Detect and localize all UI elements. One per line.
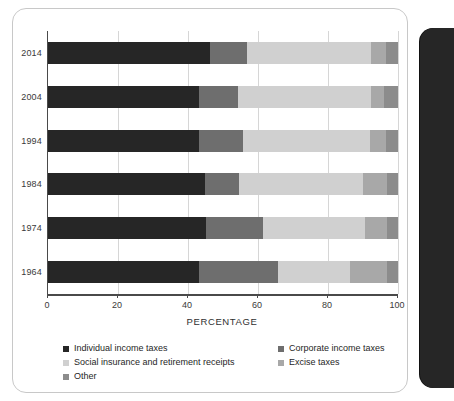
bar-segment	[387, 173, 398, 195]
legend-row: Other	[63, 371, 403, 382]
legend-item-other: Other	[63, 371, 97, 382]
bar-segment	[386, 130, 398, 152]
bar-row: 1964	[48, 261, 398, 283]
bar-row: 1994	[48, 130, 398, 152]
bar-row: 1984	[48, 173, 398, 195]
legend-row: Social insurance and retirement receipts…	[63, 357, 403, 368]
x-axis-tick	[257, 294, 258, 298]
y-axis-category-label: 2014	[21, 48, 42, 58]
y-axis-category-label: 1994	[21, 136, 42, 146]
bar-segment	[363, 173, 387, 195]
bar-segment	[350, 261, 387, 283]
bar-segment	[370, 130, 386, 152]
x-axis-tick	[397, 294, 398, 298]
bar-segment	[199, 130, 243, 152]
legend-swatch-icon	[63, 346, 69, 352]
legend-col-right: Corporate income taxes	[278, 343, 385, 354]
x-axis-tick-label: 20	[112, 300, 122, 310]
legend-item-corporate-income-taxes: Corporate income taxes	[278, 343, 385, 354]
bar-segment	[48, 173, 205, 195]
x-axis-title: PERCENTAGE	[47, 316, 397, 327]
legend-label: Individual income taxes	[74, 343, 168, 354]
bar-segment	[206, 217, 263, 239]
bar-segment	[199, 86, 239, 108]
legend-swatch-icon	[278, 346, 284, 352]
legend-col-left: Other	[63, 371, 278, 382]
legend-label: Social insurance and retirement receipts	[74, 357, 235, 368]
page-gutter	[408, 0, 420, 401]
x-axis-tick-label: 80	[322, 300, 332, 310]
bar-segment	[384, 86, 398, 108]
bar-segment	[387, 217, 398, 239]
bar-series-container: 201420041994198419741964	[48, 31, 398, 294]
y-axis-category-label: 1964	[21, 267, 42, 277]
bar-segment	[239, 173, 363, 195]
bar-row: 2014	[48, 42, 398, 64]
x-axis-tick-label: 0	[44, 300, 49, 310]
bar-segment	[48, 86, 199, 108]
bar-segment	[247, 42, 371, 64]
y-axis-category-label: 1974	[21, 223, 42, 233]
bar-segment	[243, 130, 370, 152]
bar-segment	[387, 261, 398, 283]
plot-area: 201420041994198419741964	[47, 31, 398, 294]
legend-row: Individual income taxes Corporate income…	[63, 343, 403, 354]
legend-label: Excise taxes	[289, 357, 340, 368]
bar-segment	[48, 130, 199, 152]
x-axis-tick	[47, 294, 48, 298]
bar-segment	[278, 261, 350, 283]
x-axis-tick-label: 100	[389, 300, 404, 310]
bar-segment	[386, 42, 398, 64]
legend-label: Corporate income taxes	[289, 343, 385, 354]
x-axis-tick	[117, 294, 118, 298]
legend-item-excise-taxes: Excise taxes	[278, 357, 340, 368]
side-panel	[420, 28, 454, 388]
legend-swatch-icon	[278, 360, 284, 366]
legend-item-social-insurance: Social insurance and retirement receipts	[63, 357, 235, 368]
stacked-bar-chart: 201420041994198419741964 020406080100 PE…	[13, 9, 408, 393]
y-axis-category-label: 2004	[21, 92, 42, 102]
legend-item-individual-income-taxes: Individual income taxes	[63, 343, 168, 354]
legend-col-left: Social insurance and retirement receipts	[63, 357, 278, 368]
bar-segment	[48, 217, 206, 239]
x-axis-tick-label: 60	[252, 300, 262, 310]
bar-row: 1974	[48, 217, 398, 239]
bar-segment	[371, 86, 384, 108]
legend-col-right: Excise taxes	[278, 357, 340, 368]
bar-segment	[48, 42, 210, 64]
legend-label: Other	[74, 371, 97, 382]
x-axis-tick	[187, 294, 188, 298]
x-axis-tick-label: 40	[182, 300, 192, 310]
bar-segment	[371, 42, 386, 64]
x-axis-tick	[327, 294, 328, 298]
bar-segment	[48, 261, 199, 283]
bar-segment	[263, 217, 365, 239]
x-axis-line	[47, 294, 397, 296]
bar-segment	[365, 217, 387, 239]
legend-swatch-icon	[63, 360, 69, 366]
bar-segment	[199, 261, 278, 283]
chart-legend: Individual income taxes Corporate income…	[63, 343, 403, 385]
bar-row: 2004	[48, 86, 398, 108]
bar-segment	[238, 86, 371, 108]
gridline	[398, 31, 399, 294]
chart-card: 201420041994198419741964 020406080100 PE…	[12, 8, 408, 393]
bar-segment	[205, 173, 239, 195]
y-axis-category-label: 1984	[21, 179, 42, 189]
bar-segment	[210, 42, 247, 64]
legend-swatch-icon	[63, 374, 69, 380]
legend-col-left: Individual income taxes	[63, 343, 278, 354]
